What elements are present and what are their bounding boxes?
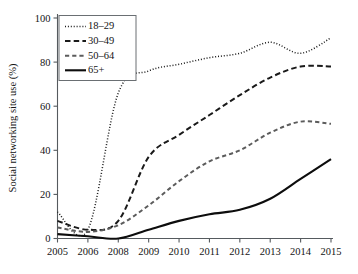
x-tick-label: 2013 [260, 246, 281, 257]
series-line-65+ [58, 159, 332, 239]
y-axis: 020406080100 [35, 13, 58, 245]
x-tick-label: 2014 [290, 246, 312, 257]
y-tick-label: 80 [40, 57, 51, 68]
x-tick-label: 2009 [138, 246, 159, 257]
legend-label: 18–29 [88, 20, 114, 31]
y-tick-label: 20 [40, 189, 51, 200]
legend-label: 30–49 [88, 35, 114, 46]
y-tick-label: 40 [40, 145, 51, 156]
chart-container: 020406080100 200520062008200920102011201… [0, 0, 358, 274]
x-tick-label: 2010 [169, 246, 190, 257]
legend-label: 65+ [88, 64, 105, 75]
y-tick-label: 100 [35, 13, 51, 24]
x-tick-label: 2015 [321, 246, 342, 257]
x-tick-label: 2008 [108, 246, 129, 257]
y-tick-label: 0 [45, 233, 50, 244]
x-tick-label: 2011 [199, 246, 220, 257]
series-line-50-64 [58, 121, 332, 232]
x-axis: 2005200620082009201020112012201320142015 [47, 239, 342, 257]
line-chart: 020406080100 200520062008200920102011201… [0, 0, 358, 274]
x-tick-label: 2012 [229, 246, 250, 257]
series-line-30-49 [58, 66, 332, 230]
x-tick-label: 2005 [47, 246, 68, 257]
chart-legend: 18–2930–4950–6465+ [59, 16, 136, 81]
y-axis-title: Social networking site use (%) [7, 63, 19, 192]
x-tick-label: 2006 [77, 246, 98, 257]
y-tick-label: 60 [40, 101, 51, 112]
legend-label: 50–64 [88, 50, 115, 61]
